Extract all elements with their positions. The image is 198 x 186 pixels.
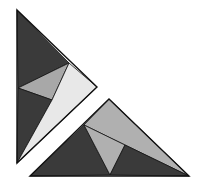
- tangram-figure: [0, 0, 198, 186]
- tangram-svg: [0, 0, 198, 186]
